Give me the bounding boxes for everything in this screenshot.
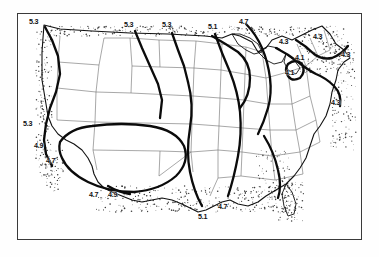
contour-label: 5.3 <box>23 120 32 127</box>
contour-label: 4.7 <box>89 191 98 198</box>
contour-label: 5.3 <box>29 18 38 25</box>
contour-label: 4.1 <box>295 54 304 61</box>
contour-label: 4.3 <box>279 38 288 45</box>
contour-label: 5.1 <box>208 23 217 30</box>
contour-label: 4.3 <box>341 51 350 58</box>
contour-label: 4.3 <box>331 99 340 106</box>
contour-label: 5.1 <box>198 213 207 220</box>
contour-label: 4.9 <box>108 191 117 198</box>
contour-label: 5.3 <box>124 21 133 28</box>
contour-label: 4.3 <box>313 33 322 40</box>
contour-label: 4.9 <box>34 142 43 149</box>
contour-label: 4.7 <box>218 203 227 210</box>
contour-label: 5.3 <box>162 21 171 28</box>
contour-label: 4.7 <box>46 157 55 164</box>
contour-label: 4.7 <box>239 18 248 25</box>
contour-map-figure: 5.3 5.3 5.3 5.3 5.1 5.1 4.9 4.9 4.7 4.7 … <box>0 0 379 257</box>
contour-label: 4.1 <box>285 69 294 76</box>
